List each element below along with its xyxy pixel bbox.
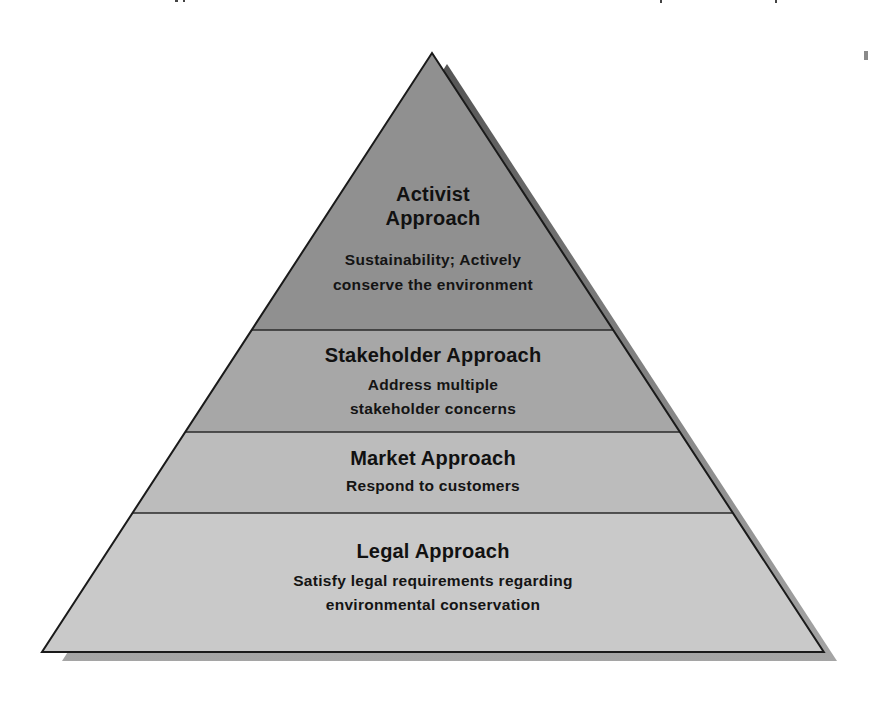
tier-description: Respond to customers: [346, 477, 520, 494]
tier-title: Legal Approach: [356, 540, 509, 562]
tier-description: Address multiple: [368, 376, 499, 393]
tier-title: Approach: [386, 207, 481, 229]
tier-description: stakeholder concerns: [350, 400, 516, 417]
tier-title: Stakeholder Approach: [325, 344, 542, 366]
tier-title: Market Approach: [350, 447, 516, 469]
tier-description: Sustainability; Actively: [345, 251, 521, 268]
tier-title: Activist: [396, 183, 470, 205]
tier-description: conserve the environment: [333, 276, 533, 293]
tier-description: environmental conservation: [326, 596, 541, 613]
tier-description: Satisfy legal requirements regarding: [293, 572, 573, 589]
tier-market: [133, 432, 733, 513]
pyramid-diagram: Activist Approach Sustainability; Active…: [0, 0, 871, 708]
